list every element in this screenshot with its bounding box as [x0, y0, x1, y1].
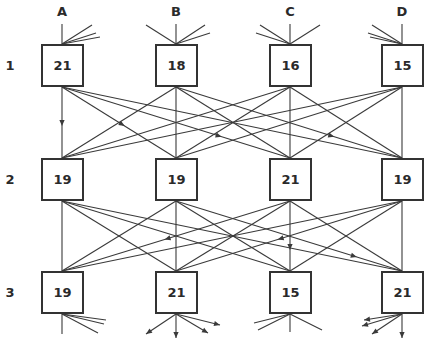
node-b1: 18	[155, 44, 198, 87]
network-diagram: A B C D 1 2 3 21 18 16 15 19 19 21 19 19…	[0, 0, 428, 348]
node-d2: 19	[381, 158, 424, 201]
node-c2: 21	[269, 158, 312, 201]
row-label-3: 3	[5, 286, 14, 299]
node-b3: 21	[155, 271, 198, 314]
node-a1: 21	[41, 44, 84, 87]
column-label-c: C	[285, 5, 295, 18]
column-label-d: D	[397, 5, 408, 18]
node-b2: 19	[155, 158, 198, 201]
column-label-a: A	[57, 5, 67, 18]
row-label-2: 2	[5, 173, 14, 186]
node-c3: 15	[269, 271, 312, 314]
node-c1: 16	[269, 44, 312, 87]
node-d1: 15	[381, 44, 424, 87]
node-a2: 19	[41, 158, 84, 201]
row-label-1: 1	[5, 59, 14, 72]
column-label-b: B	[171, 5, 181, 18]
node-d3: 21	[381, 271, 424, 314]
node-a3: 19	[41, 271, 84, 314]
